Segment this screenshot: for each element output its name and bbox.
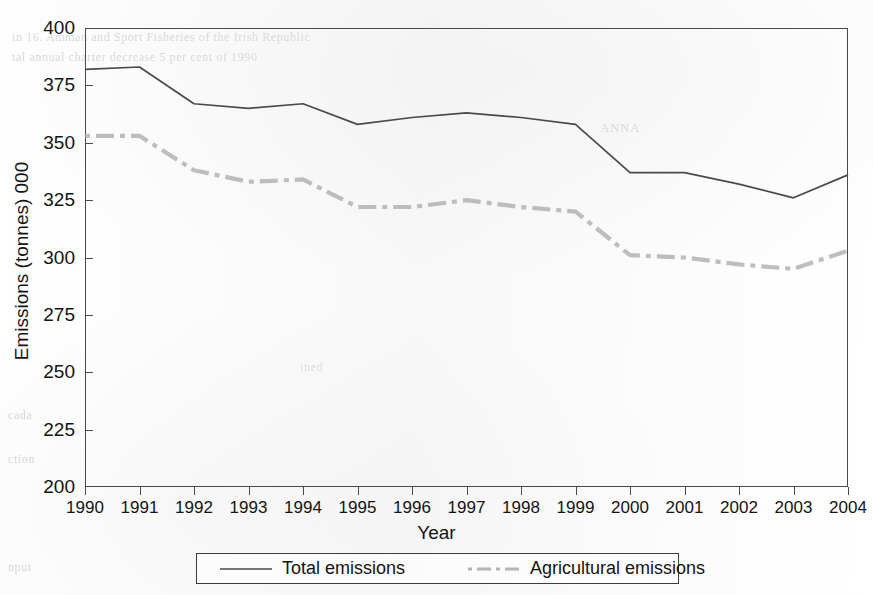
x-axis-title: Year — [0, 522, 873, 544]
x-axis-tick-mark — [630, 487, 631, 495]
y-axis-tick-mark — [85, 430, 93, 431]
x-axis-tick-label: 1999 — [550, 499, 602, 517]
chart-legend: Total emissions Agricultural emissions — [196, 553, 679, 584]
x-axis-tick-mark — [412, 487, 413, 495]
y-axis-tick-label: 275 — [43, 305, 75, 324]
x-axis-tick-label: 2002 — [713, 499, 765, 517]
x-axis-tick-label: 1990 — [59, 499, 111, 517]
x-axis-tick-label: 1991 — [114, 499, 166, 517]
y-axis-tick-label: 250 — [43, 362, 75, 381]
y-axis-tick-mark — [85, 258, 93, 259]
chart-series-layer — [85, 28, 848, 487]
y-axis-tick-label: 300 — [43, 248, 75, 267]
x-axis-tick-mark — [521, 487, 522, 495]
x-axis-tick-label: 1995 — [332, 499, 384, 517]
x-axis-tick-label: 1993 — [223, 499, 275, 517]
x-axis-tick-mark — [467, 487, 468, 495]
y-axis-tick-mark — [85, 85, 93, 86]
x-axis-tick-label: 1994 — [277, 499, 329, 517]
y-axis-tick-label: 200 — [43, 477, 75, 496]
y-axis-tick-label: 350 — [43, 133, 75, 152]
legend-label-agricultural-emissions: Agricultural emissions — [530, 558, 705, 579]
y-axis-tick-label: 325 — [43, 190, 75, 209]
y-axis-tick-label: 225 — [43, 420, 75, 439]
x-axis-tick-mark — [85, 487, 86, 495]
x-axis-tick-label: 2003 — [768, 499, 820, 517]
x-axis-tick-mark — [303, 487, 304, 495]
x-axis-tick-mark — [794, 487, 795, 495]
x-axis-tick-mark — [685, 487, 686, 495]
x-axis-tick-mark — [140, 487, 141, 495]
y-axis-tick-label: 375 — [43, 75, 75, 94]
legend-swatch-dash-dot-line — [467, 563, 521, 575]
series-line-total-emissions — [85, 67, 848, 198]
y-axis-tick-mark — [85, 200, 93, 201]
x-axis-tick-label: 2004 — [822, 499, 873, 517]
y-axis-tick-mark — [85, 372, 93, 373]
x-axis-tick-label: 1997 — [441, 499, 493, 517]
legend-label-total-emissions: Total emissions — [282, 558, 405, 579]
x-axis-tick-mark — [249, 487, 250, 495]
y-axis-tick-mark — [85, 315, 93, 316]
y-axis-tick-label: 400 — [43, 18, 75, 37]
x-axis-tick-mark — [576, 487, 577, 495]
x-axis-tick-label: 1992 — [168, 499, 220, 517]
x-axis-tick-mark — [739, 487, 740, 495]
x-axis-tick-label: 2001 — [659, 499, 711, 517]
legend-swatch-solid-line — [219, 563, 273, 575]
x-axis-tick-mark — [194, 487, 195, 495]
legend-item-total-emissions: Total emissions — [219, 554, 405, 583]
legend-item-agricultural-emissions: Agricultural emissions — [467, 554, 705, 583]
x-axis-tick-label: 1998 — [495, 499, 547, 517]
x-axis-tick-mark — [358, 487, 359, 495]
x-axis-tick-label: 1996 — [386, 499, 438, 517]
x-axis-tick-mark — [848, 487, 849, 495]
series-line-agricultural-emissions — [85, 136, 848, 269]
y-axis-tick-mark — [85, 143, 93, 144]
x-axis-tick-label: 2000 — [604, 499, 656, 517]
